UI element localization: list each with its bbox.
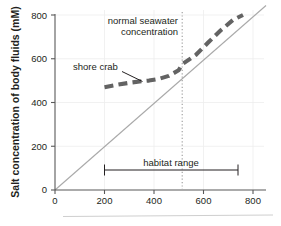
habitat-range-label: habitat range [143, 157, 198, 168]
y-axis-ticks [51, 15, 55, 190]
y-tick-label-0: 0 [42, 184, 47, 195]
y-tick-label-600: 600 [31, 53, 47, 64]
y-tick-label-400: 400 [31, 97, 47, 108]
x-tick-label-200: 200 [97, 195, 113, 206]
shore-crab-leader-line [122, 72, 143, 82]
normal-seawater-label-line1: normal seawater [108, 15, 178, 26]
shore-crab-label: shore crab [73, 61, 118, 72]
x-axis-ticks [55, 190, 253, 194]
y-axis-title: Salt concentration of body fluids (mM) [9, 6, 21, 197]
normal-seawater-label-line2: concentration [121, 26, 178, 37]
y-tick-label-200: 200 [31, 141, 47, 152]
x-tick-label-800: 800 [245, 195, 261, 206]
chart-canvas: 0 200 400 600 800 0 200 400 600 800 Salt… [0, 0, 281, 226]
footer-rule [63, 215, 273, 217]
x-tick-label-600: 600 [196, 195, 212, 206]
y-tick-label-800: 800 [31, 10, 47, 21]
chart-figure: 0 200 400 600 800 0 200 400 600 800 Salt… [0, 0, 281, 226]
x-tick-label-0: 0 [52, 195, 57, 206]
x-tick-label-400: 400 [146, 195, 162, 206]
